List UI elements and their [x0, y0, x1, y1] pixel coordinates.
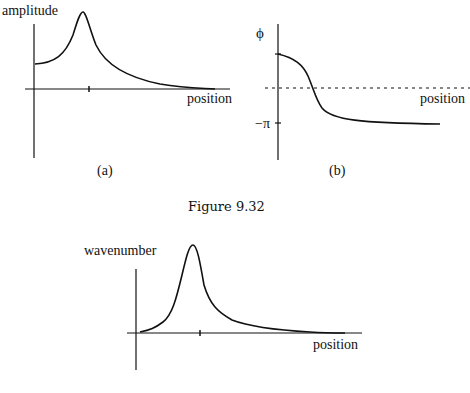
panel-b-xlabel: position [420, 92, 465, 106]
panel-c-curve [140, 245, 345, 333]
panel-a-xlabel: position [187, 92, 232, 106]
panel-c-ylabel: wavenumber [84, 244, 156, 258]
panel-b-ylabel: ϕ [256, 26, 264, 40]
figure-canvas [0, 0, 470, 393]
panel-a-ylabel: amplitude [2, 4, 58, 18]
panel-a-caption: (a) [97, 164, 113, 178]
panel-a-curve [35, 12, 215, 89]
panel-b-curve [278, 54, 440, 124]
panel-c-xlabel: position [313, 338, 358, 352]
panel-b-minus-pi-label: −π [255, 117, 270, 131]
figure-caption: Figure 9.32 [188, 200, 265, 213]
panel-b-caption: (b) [329, 164, 345, 178]
panel-a-plot [25, 12, 230, 158]
